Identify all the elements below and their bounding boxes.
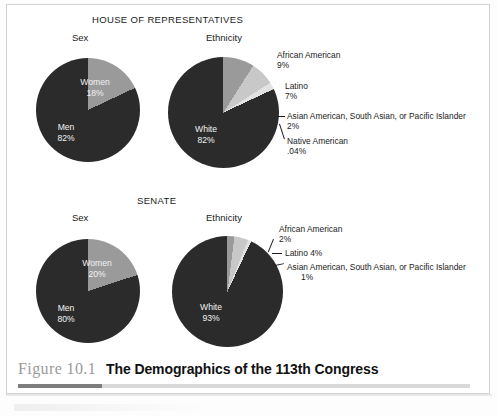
senate-callout-latino: Latino 4% — [285, 248, 322, 258]
senate-sex-men-label: Men 80% — [44, 303, 88, 324]
senate-callout-asian-pacific: Asian American, South Asian, or Pacific … — [287, 262, 466, 282]
house-sex-women-label: Women 18% — [72, 77, 118, 98]
senate-callout-african-american-pct: 2% — [279, 234, 342, 244]
senate-ethnicity-white-pct: 93% — [202, 313, 219, 323]
senate-sex-pie — [36, 239, 140, 343]
senate-callout-african-american-name: African American — [279, 224, 342, 234]
house-callout-african-american: African American 9% — [277, 50, 340, 70]
senate-callout-asian-pacific-name: Asian American, South Asian, or Pacific … — [287, 262, 466, 272]
page-footer-smudge — [14, 404, 214, 411]
house-sex-heading: Sex — [72, 32, 88, 43]
senate-callout-african-american: African American 2% — [279, 224, 342, 244]
figure-title: The Demographics of the 113th Congress — [106, 361, 378, 377]
senate-callout-latino-name: Latino 4% — [285, 248, 322, 258]
figure-frame-shadow — [6, 394, 492, 396]
figure-page: HOUSE OF REPRESENTATIVES Sex Women 18% M… — [0, 0, 498, 417]
house-callout-native-american-name: Native American — [287, 136, 348, 146]
house-callout-asian-pacific-pct: 2% — [287, 121, 466, 131]
senate-leader-latino — [272, 253, 282, 254]
house-sex-women-name: Women — [80, 77, 109, 87]
senate-sex-heading: Sex — [72, 212, 88, 223]
figure-caption: Figure 10.1 The Demographics of the 113t… — [18, 360, 470, 390]
house-sex-women-pct: 18% — [86, 88, 103, 98]
house-callout-african-american-pct: 9% — [277, 60, 340, 70]
house-ethnicity-white-pct: 82% — [197, 135, 214, 145]
senate-sex-women-pct: 20% — [88, 269, 105, 279]
senate-section-heading: SENATE — [137, 195, 176, 206]
house-section-heading: HOUSE OF REPRESENTATIVES — [92, 14, 243, 25]
house-callout-native-american: Native American .04% — [287, 136, 348, 156]
house-sex-men-label: Men 82% — [44, 122, 88, 143]
senate-sex-women-label: Women 20% — [74, 258, 120, 279]
senate-ethnicity-white-label: White 93% — [186, 302, 236, 323]
house-sex-men-pct: 82% — [57, 133, 74, 143]
house-callout-african-american-name: African American — [277, 50, 340, 60]
senate-sex-men-pct: 80% — [57, 314, 74, 324]
senate-ethnicity-heading: Ethnicity — [206, 212, 242, 223]
house-callout-latino-name: Latino — [285, 81, 308, 91]
house-ethnicity-white-label: White 82% — [181, 124, 231, 145]
house-ethnicity-heading: Ethnicity — [206, 32, 242, 43]
house-callout-latino: Latino 7% — [285, 81, 308, 101]
house-ethnicity-pie — [168, 57, 279, 168]
house-callout-latino-pct: 7% — [285, 91, 308, 101]
house-leader-asian — [277, 116, 285, 117]
house-ethnicity-white-name: White — [195, 124, 217, 134]
house-sex-pie — [36, 58, 140, 162]
figure-number: Figure 10.1 — [18, 360, 96, 378]
house-callout-asian-pacific-name: Asian American, South Asian, or Pacific … — [287, 111, 466, 121]
senate-sex-men-name: Men — [58, 303, 75, 313]
senate-sex-women-name: Women — [82, 258, 111, 268]
caption-rule-dark — [18, 384, 102, 388]
house-callout-asian-pacific: Asian American, South Asian, or Pacific … — [287, 111, 466, 131]
senate-ethnicity-white-name: White — [200, 302, 222, 312]
senate-ethnicity-pie — [172, 236, 283, 347]
senate-callout-asian-pacific-pct: 1% — [301, 272, 466, 282]
house-sex-men-name: Men — [58, 122, 75, 132]
house-callout-native-american-pct: .04% — [287, 146, 348, 156]
